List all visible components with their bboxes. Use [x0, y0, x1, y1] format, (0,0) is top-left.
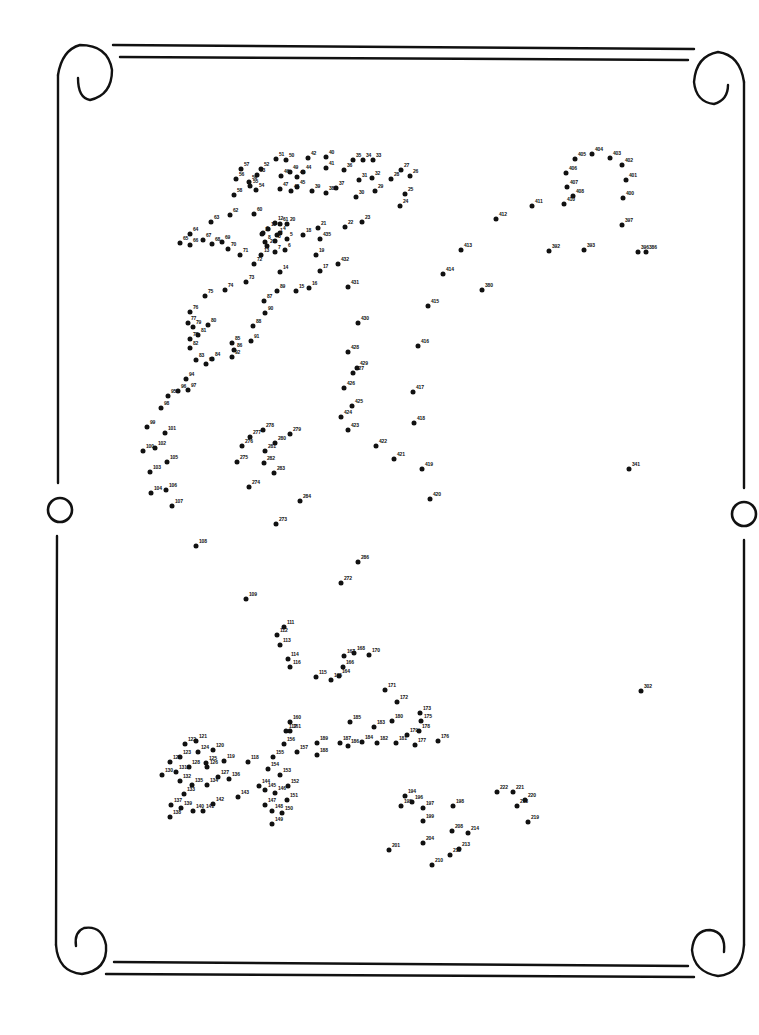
dot-181: [394, 741, 399, 746]
dot-72: [252, 262, 257, 267]
dot-label: 45: [300, 180, 305, 185]
dot-134: [205, 783, 210, 788]
dot-279: [288, 432, 293, 437]
dot-label: 26: [413, 169, 418, 174]
dot-137: [169, 803, 174, 808]
dot-19: [314, 253, 319, 258]
dot-64: [188, 232, 193, 237]
dot-135: [190, 783, 195, 788]
dot-label: 416: [421, 339, 429, 344]
dot-label: 170: [372, 648, 380, 653]
dot-label: 97: [191, 383, 196, 388]
dot-label: 85: [235, 336, 240, 341]
dot-label: 118: [251, 755, 258, 760]
dot-39: [310, 189, 315, 194]
dot-23: [360, 220, 365, 225]
dot-label: 279: [293, 427, 301, 432]
dot-213: [457, 847, 462, 852]
dot-label: 150: [285, 806, 293, 811]
dot-155: [271, 755, 276, 760]
dot-102: [153, 446, 158, 451]
dot-218: [515, 804, 520, 809]
dot-label: 28: [394, 172, 399, 177]
dot-label: 47: [283, 182, 288, 187]
dot-22: [343, 225, 348, 230]
dot-38: [324, 191, 329, 196]
dot-label: 161: [293, 724, 301, 729]
dot-label: 72: [257, 257, 262, 262]
dot-label: 282: [267, 456, 275, 461]
dot-label: 277: [253, 430, 261, 435]
dot-10: [260, 232, 265, 237]
dot-label: 60: [257, 207, 262, 212]
dot-151: [285, 798, 290, 803]
dot-80: [206, 323, 211, 328]
dot-69: [220, 240, 225, 245]
dot-199: [421, 819, 426, 824]
dot-78: [188, 337, 193, 342]
dot-label: 142: [216, 797, 224, 802]
dot-4: [278, 231, 283, 236]
dot-label: 165: [334, 673, 342, 678]
dot-57: [239, 167, 244, 172]
dot-103: [148, 470, 153, 475]
dot-label: 59: [252, 175, 257, 180]
dot-label: 62: [233, 208, 238, 213]
dot-20: [285, 222, 290, 227]
dot-label: 134: [210, 778, 218, 783]
dot-label: 386: [649, 245, 657, 250]
dot-126: [205, 765, 210, 770]
dot-36: [342, 168, 347, 173]
right-rail-top: [694, 52, 744, 104]
dot-label: 186: [351, 739, 359, 744]
dot-label: 30: [359, 190, 364, 195]
bottom-rule-outer: [106, 974, 694, 977]
dot-label: 23: [365, 215, 370, 220]
dot-label: 35: [356, 153, 361, 158]
dot-label: 107: [175, 499, 183, 504]
dot-412: [494, 217, 499, 222]
dot-25: [403, 192, 408, 197]
dot-label: 146: [278, 786, 286, 791]
dot-label: 31: [362, 173, 367, 178]
left-ring: [48, 498, 72, 522]
dot-label: 380: [485, 283, 493, 288]
dot-label: 175: [424, 714, 432, 719]
dot-152: [286, 784, 291, 789]
dot-98: [159, 406, 164, 411]
dot-label: 219: [531, 815, 539, 820]
dot-15: [294, 289, 299, 294]
dot-label: 106: [169, 483, 177, 488]
dot-label: 102: [158, 441, 166, 446]
dot-65: [178, 241, 183, 246]
dot-label: 99: [150, 420, 155, 425]
dot-85: [230, 341, 235, 346]
dot-184: [360, 740, 365, 745]
dot-173: [418, 711, 423, 716]
dot-label: 418: [417, 416, 425, 421]
dot-26: [408, 174, 413, 179]
dot-130: [160, 773, 165, 778]
dot-label: 69: [225, 235, 230, 240]
dot-label: 431: [351, 280, 359, 285]
dot-label: 40: [329, 150, 334, 155]
dot-label: 131: [179, 765, 187, 770]
dot-label: 111: [287, 620, 294, 625]
dot-183: [372, 725, 377, 730]
dot-label: 201: [392, 843, 400, 848]
dot-167: [342, 654, 347, 659]
dot-277: [248, 435, 253, 440]
dot-label: 392: [552, 244, 560, 249]
dot-label: 49: [293, 165, 298, 170]
dot-label: 86: [237, 343, 242, 348]
top-rule-inner: [120, 57, 688, 60]
dot-label: 113: [283, 638, 290, 643]
dot-label: 424: [344, 410, 352, 415]
dot-140: [191, 809, 196, 814]
dot-283: [272, 471, 277, 476]
dot-31: [357, 178, 362, 183]
dot-189: [315, 741, 320, 746]
dot-label: 93: [209, 357, 214, 362]
dot-141: [201, 809, 206, 814]
dot-label: 132: [183, 774, 191, 779]
